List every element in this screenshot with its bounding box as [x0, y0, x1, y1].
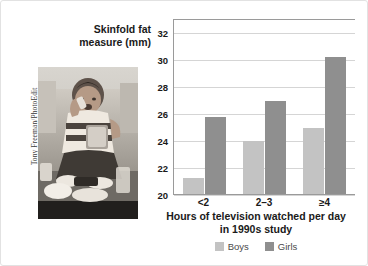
plot-canvas — [173, 19, 355, 195]
television-viewer-photo — [38, 67, 138, 219]
gridline-20 — [174, 195, 355, 196]
legend-item-boys[interactable]: Boys — [215, 241, 249, 252]
y-tick-label-22: 22 — [157, 162, 168, 173]
x-category-label-2: 2–3 — [234, 197, 295, 208]
legend-item-girls[interactable]: Girls — [265, 241, 298, 252]
legend-swatch-boys-icon — [215, 242, 224, 251]
plot-area: 20222426283032 — [149, 19, 355, 195]
bar-group-2 — [234, 19, 294, 194]
y-axis-title-line1: Skinfold fat — [61, 23, 151, 36]
x-axis-title-line2: in 1990s study — [151, 223, 361, 236]
y-axis-tick-labels: 20222426283032 — [149, 19, 171, 195]
bar-girls-3[interactable] — [325, 57, 346, 194]
y-tick-label-24: 24 — [157, 135, 168, 146]
y-tick-label-28: 28 — [157, 81, 168, 92]
y-tick-label-26: 26 — [157, 108, 168, 119]
chart-legend: BoysGirls — [151, 241, 361, 252]
x-axis-title-line1: Hours of television watched per day — [151, 210, 361, 223]
legend-label-boys: Boys — [228, 241, 249, 252]
bar-group-3 — [295, 19, 355, 194]
legend-label-girls: Girls — [278, 241, 298, 252]
x-axis-title: Hours of television watched per day in 1… — [151, 210, 361, 236]
bar-boys-3[interactable] — [303, 128, 324, 194]
photo-block: Tony Freeman/PhotoEdit — [20, 67, 138, 219]
bar-groups — [174, 19, 355, 194]
y-tick-label-32: 32 — [157, 27, 168, 38]
y-tick-label-30: 30 — [157, 54, 168, 65]
y-axis-title-line2: measure (mm) — [61, 36, 151, 49]
x-axis-category-labels: <22–3≥4 — [173, 197, 355, 208]
y-axis-title: Skinfold fat measure (mm) — [61, 23, 151, 49]
legend-swatch-girls-icon — [265, 242, 274, 251]
bar-group-1 — [174, 19, 234, 194]
bar-girls-2[interactable] — [265, 101, 286, 194]
x-category-label-3: ≥4 — [294, 197, 355, 208]
bar-boys-1[interactable] — [183, 178, 204, 194]
chart-figure: Tony Freeman/PhotoEdit — [0, 0, 368, 266]
x-category-label-1: <2 — [173, 197, 234, 208]
bar-boys-2[interactable] — [243, 141, 264, 194]
y-tick-label-20: 20 — [157, 190, 168, 201]
bar-girls-1[interactable] — [205, 117, 226, 194]
